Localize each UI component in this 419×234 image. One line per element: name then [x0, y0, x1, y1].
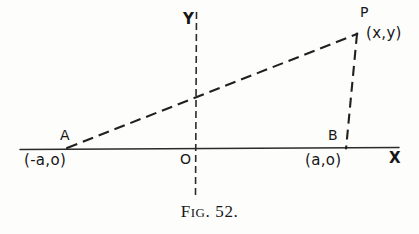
point-label-b: B	[328, 128, 338, 142]
y-axis-line	[196, 12, 197, 196]
point-label-p: P	[360, 5, 368, 19]
point-marker-a	[66, 147, 68, 149]
segment-ap	[67, 34, 357, 148]
point-marker-p	[356, 33, 359, 36]
caption-prefix: F	[181, 202, 191, 221]
y-axis-label: Y	[183, 12, 194, 27]
x-axis-label: X	[389, 151, 401, 166]
coordinate-label-a: (-a,o)	[24, 153, 66, 168]
coordinate-diagram	[0, 0, 419, 234]
figure-container: Y X O A B P (-a,o) (a,o) (x,y) FIG. 52.	[0, 0, 419, 234]
point-label-a: A	[60, 128, 70, 142]
point-marker-b	[345, 147, 347, 149]
segment-pb	[346, 34, 357, 149]
x-axis-line	[20, 148, 399, 150]
coordinate-label-b: (a,o)	[305, 153, 341, 168]
figure-caption: FIG. 52.	[0, 202, 419, 222]
caption-smallcaps: IG	[191, 205, 206, 220]
caption-suffix: . 52.	[206, 202, 239, 221]
origin-label: O	[180, 152, 191, 166]
coordinate-label-p: (x,y)	[366, 26, 402, 41]
